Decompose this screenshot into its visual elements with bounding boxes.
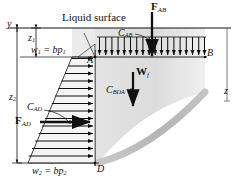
hydrostatic-force-diagram: Liquid surface y z z1 z2 w1 = bp1 w2 = b… bbox=[0, 0, 239, 183]
wf-subscript: f bbox=[147, 71, 149, 78]
w2-symbol: w bbox=[32, 165, 39, 176]
w2-rhs-subscript: 2 bbox=[64, 169, 67, 176]
centroid-marker-cbda bbox=[130, 89, 133, 92]
depth-z1-label: z1 bbox=[28, 33, 35, 44]
w1-symbol: w bbox=[31, 44, 38, 55]
force-ab-label: FAB bbox=[151, 1, 166, 13]
weight-f-label: Wf bbox=[136, 66, 149, 78]
centroid-ab-label: CAB bbox=[118, 28, 132, 39]
cbda-symbol: C bbox=[106, 84, 113, 95]
fab-symbol: F bbox=[151, 0, 158, 12]
w1-rhs: = bp bbox=[41, 44, 63, 55]
w2-expression-label: w2 = bp2 bbox=[32, 166, 67, 177]
w1-expression-label: w1 = bp1 bbox=[31, 45, 66, 56]
cab-subscript: AB bbox=[125, 31, 133, 38]
point-a-label: A bbox=[87, 55, 93, 65]
centroid-bda-label: CBDA bbox=[106, 85, 125, 96]
w2-rhs: = bp bbox=[42, 165, 64, 176]
z1-subscript: 1 bbox=[32, 36, 35, 43]
axis-y-label: y bbox=[7, 19, 11, 29]
cab-symbol: C bbox=[118, 27, 125, 38]
liquid-surface-label: Liquid surface bbox=[62, 12, 126, 23]
w1-rhs-subscript: 1 bbox=[63, 48, 66, 55]
fad-symbol: F bbox=[15, 114, 22, 126]
point-d-label: D bbox=[97, 164, 104, 174]
wf-symbol: W bbox=[136, 65, 147, 77]
centroid-ad-label: CAD bbox=[27, 102, 42, 113]
cbda-subscript: BDA bbox=[113, 88, 125, 95]
depth-z2-label: z2 bbox=[9, 92, 16, 103]
point-b-label: B bbox=[207, 48, 213, 58]
cad-symbol: C bbox=[27, 101, 34, 112]
force-ad-label: FAD bbox=[15, 115, 31, 127]
cad-subscript: AD bbox=[34, 105, 42, 112]
fad-subscript: AD bbox=[22, 120, 31, 127]
z2-subscript: 2 bbox=[13, 95, 16, 102]
fab-subscript: AB bbox=[158, 6, 166, 13]
axis-z-label: z bbox=[224, 86, 228, 96]
